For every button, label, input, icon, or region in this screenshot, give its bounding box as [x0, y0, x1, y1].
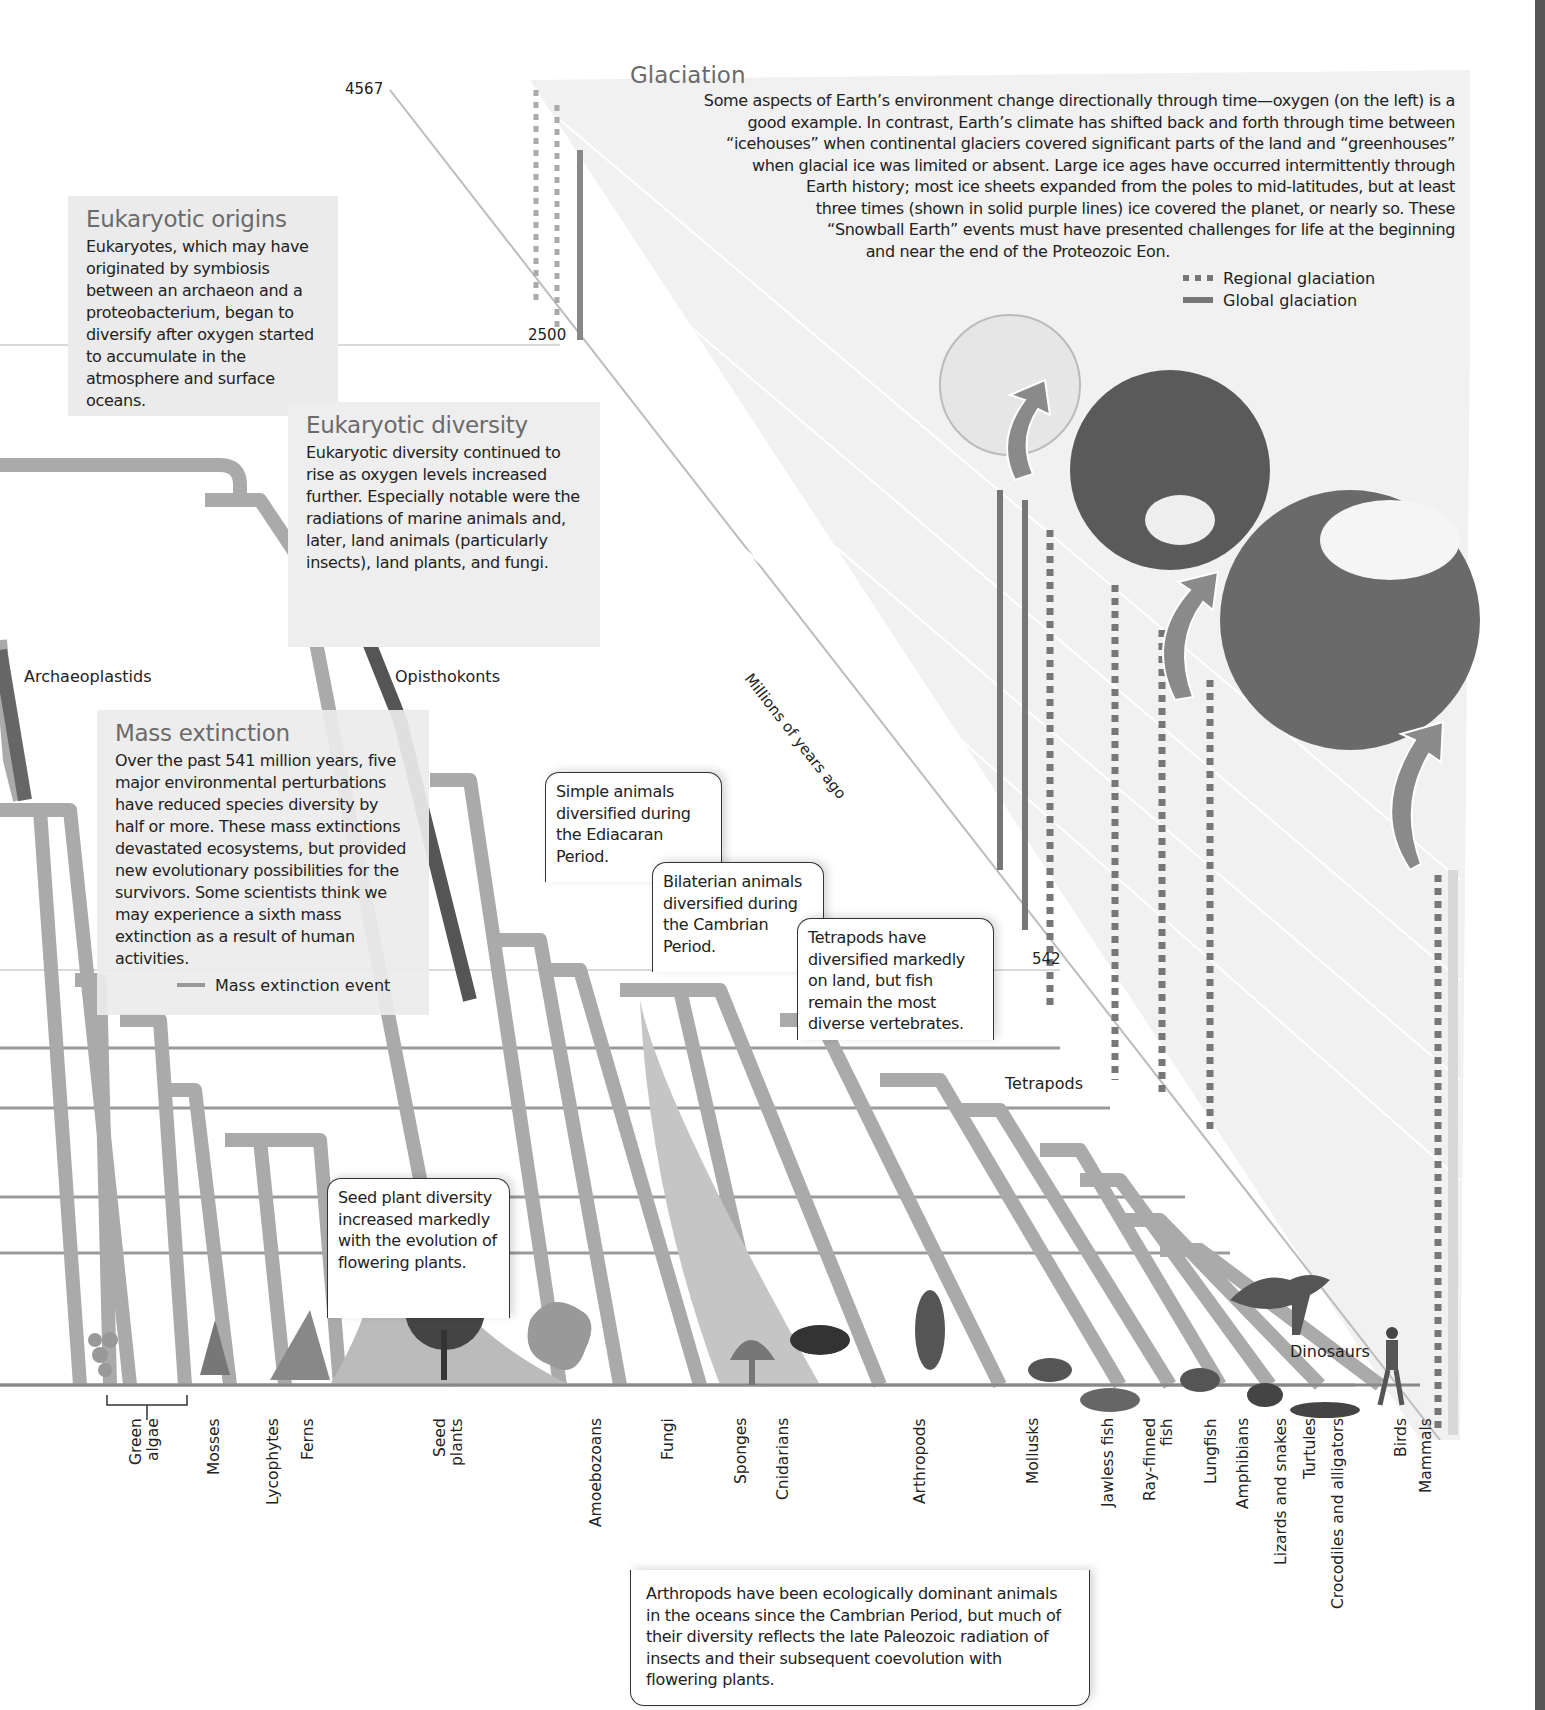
- callout-tetrapods: Tetrapods have diversified markedly on l…: [797, 918, 994, 1040]
- mass-extinction-text: Over the past 541 million years, five ma…: [115, 750, 411, 970]
- dashed-line-icon: [1183, 275, 1213, 281]
- glaciation-panel: Glaciation Some aspects of Earth’s envir…: [620, 62, 1460, 262]
- taxon-label-lungfish: Lungfish: [1203, 1418, 1220, 1498]
- glaciation-legend: Regional glaciation Global glaciation: [1183, 267, 1375, 311]
- axis-tick-4567: 4567: [345, 80, 383, 98]
- amoeba-icon: [528, 1302, 592, 1370]
- taxon-label-fungi: Fungi: [660, 1418, 677, 1498]
- green-algae-bracket: [107, 1395, 187, 1420]
- callout-arthropods: Arthropods have been ecologically domina…: [630, 1570, 1090, 1706]
- taxon-label-crocodiles-alligators: Crocodiles and alligators: [1330, 1418, 1347, 1618]
- page-edge: [1535, 0, 1545, 1710]
- crocodile-icon: [1290, 1402, 1360, 1418]
- axis-tick-2500: 2500: [528, 326, 566, 344]
- taxon-label-sponges: Sponges: [733, 1418, 750, 1498]
- glaciation-title: Glaciation: [630, 62, 1460, 88]
- mass-extinction-legend: Mass extinction event: [177, 974, 411, 996]
- mass-extinction-panel: Mass extinction Over the past 541 millio…: [97, 710, 429, 1015]
- taxon-label-turtules: Turtules: [1302, 1418, 1319, 1498]
- clade-label-opisthokonts: Opisthokonts: [395, 667, 500, 686]
- taxon-label-mosses: Mosses: [206, 1418, 223, 1498]
- taxon-label-cnidarians: Cnidarians: [775, 1418, 792, 1516]
- taxon-label-jawless-fish: Jawless fish: [1100, 1418, 1117, 1518]
- mass-extinction-line-icon: [177, 983, 205, 987]
- scorpion-icon: [790, 1325, 850, 1355]
- globe-partial-ice-icon: [1070, 370, 1270, 570]
- eukaryotic-origins-panel: Eukaryotic origins Eukaryotes, which may…: [68, 196, 338, 416]
- eukaryotic-origins-text: Eukaryotes, which may have originated by…: [86, 236, 320, 412]
- taxon-label-mammals: Mammals: [1418, 1418, 1435, 1513]
- taxon-label-arthropods: Arthropods: [912, 1418, 929, 1516]
- taxon-label-lizards-snakes: Lizards and snakes: [1273, 1418, 1290, 1573]
- snail-icon: [1028, 1358, 1072, 1382]
- frog-icon: [1180, 1368, 1220, 1392]
- taxon-label-amoebozoans: Amoebozoans: [588, 1418, 605, 1536]
- legend-global: Global glaciation: [1183, 289, 1375, 311]
- fish-icon: [1080, 1388, 1140, 1412]
- clade-label-dinosaurs: Dinosaurs: [1290, 1342, 1370, 1361]
- taxon-label-amphibians: Amphibians: [1235, 1418, 1252, 1518]
- eukaryotic-diversity-text: Eukaryotic diversity continued to rise a…: [306, 442, 582, 574]
- solid-line-icon: [1183, 297, 1213, 303]
- eukaryotic-diversity-panel: Eukaryotic diversity Eukaryotic diversit…: [288, 402, 600, 647]
- glaciation-text: Some aspects of Earth’s environment chan…: [620, 90, 1455, 262]
- taxon-label-ferns: Ferns: [300, 1418, 317, 1498]
- eukaryotic-origins-title: Eukaryotic origins: [86, 206, 320, 232]
- clade-label-archaeoplastids: Archaeoplastids: [24, 667, 152, 686]
- mass-extinction-title: Mass extinction: [115, 720, 411, 746]
- taxon-label-mollusks: Mollusks: [1025, 1418, 1042, 1498]
- axis-tick-542: 542: [1032, 950, 1061, 968]
- taxon-label-green-algae: Green algae: [128, 1418, 162, 1508]
- turtle-icon: [1247, 1383, 1283, 1407]
- callout-seed-plants: Seed plant diversity increased markedly …: [327, 1178, 510, 1318]
- taxon-label-seed-plants: Seed plants: [432, 1418, 466, 1498]
- squid-icon: [915, 1290, 945, 1370]
- globe-modern-icon: [1220, 490, 1480, 750]
- eukaryotic-diversity-title: Eukaryotic diversity: [306, 412, 582, 438]
- taxon-label-lycophytes: Lycophytes: [265, 1418, 282, 1520]
- taxon-label-birds: Birds: [1393, 1418, 1410, 1498]
- taxon-label-ray-finned-fish: Ray-finned fish: [1142, 1418, 1176, 1508]
- clade-label-tetrapods: Tetrapods: [1005, 1074, 1083, 1093]
- legend-regional: Regional glaciation: [1183, 267, 1375, 289]
